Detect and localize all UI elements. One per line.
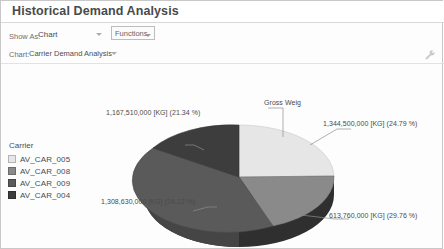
legend-swatch-icon bbox=[8, 155, 16, 163]
title-bar: Historical Demand Analysis bbox=[1, 1, 444, 23]
legend-title: Carrier bbox=[9, 141, 104, 150]
chart-legend: Carrier AV_CAR_005 AV_CAR_008 AV_CAR_009… bbox=[8, 141, 104, 201]
data-label-av-car-004: 1,167,510,000 [KG] (21.34 %) bbox=[106, 109, 200, 116]
show-as-dropdown[interactable]: Chart bbox=[38, 28, 102, 40]
page-title: Historical Demand Analysis bbox=[12, 4, 179, 18]
legend-item-label: AV_CAR_009 bbox=[20, 179, 70, 188]
show-as-value: Chart bbox=[38, 30, 58, 39]
data-label-av-car-009: 1,308,630,000 [KG] (24.12 %) bbox=[101, 198, 195, 205]
legend-item-av-car-008[interactable]: AV_CAR_008 bbox=[8, 165, 104, 177]
chart-dropdown-value: Carrier Demand Analysis bbox=[29, 49, 112, 58]
functions-button[interactable]: Functions bbox=[111, 26, 155, 40]
data-label-av-car-008: 613,760,000 [KG] (29.76 %) bbox=[329, 212, 417, 219]
pie-chart: Gross Weig 1,167,510,000 [KG] (21.34 %) … bbox=[105, 67, 444, 249]
legend-swatch-icon bbox=[8, 167, 16, 175]
legend-item-av-car-004[interactable]: AV_CAR_004 bbox=[8, 189, 104, 201]
chart-selector-bar: Chart: Carrier Demand Analysis bbox=[1, 46, 444, 64]
legend-swatch-icon bbox=[8, 179, 16, 187]
wrench-icon[interactable] bbox=[424, 49, 436, 61]
toolbar: Show As: Chart Functions bbox=[1, 24, 444, 44]
data-label-av-car-005: 1,344,500,000 [KG] (24.79 %) bbox=[323, 120, 417, 127]
legend-item-label: AV_CAR_005 bbox=[20, 155, 70, 164]
caret-down-icon bbox=[145, 34, 151, 37]
pie-chart-canvas bbox=[105, 67, 444, 249]
show-as-label: Show As: bbox=[9, 32, 40, 41]
chevron-down-icon bbox=[96, 33, 102, 36]
series-callout-label: Gross Weig bbox=[264, 99, 301, 106]
divider bbox=[1, 63, 444, 64]
pie-slice-av-car-005 bbox=[239, 125, 334, 177]
legend-item-label: AV_CAR_008 bbox=[20, 167, 70, 176]
legend-swatch-icon bbox=[8, 191, 16, 199]
legend-item-label: AV_CAR_004 bbox=[20, 191, 70, 200]
chart-dropdown[interactable]: Carrier Demand Analysis bbox=[29, 47, 117, 59]
legend-item-av-car-005[interactable]: AV_CAR_005 bbox=[8, 153, 104, 165]
chart-label: Chart: bbox=[9, 50, 29, 59]
legend-item-av-car-009[interactable]: AV_CAR_009 bbox=[8, 177, 104, 189]
chevron-down-icon bbox=[111, 52, 117, 55]
functions-button-label: Functions bbox=[115, 29, 148, 38]
